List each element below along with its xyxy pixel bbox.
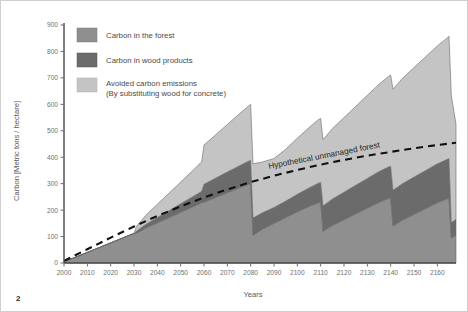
y-tick-label-500: 500 bbox=[47, 127, 58, 134]
legend-swatch-forest bbox=[77, 28, 97, 42]
y-tick-label-100: 100 bbox=[47, 233, 58, 240]
y-axis-title: Carbon [Metric tons / hectare] bbox=[12, 101, 21, 201]
page-number: 2 bbox=[16, 294, 20, 303]
x-tick-label-2160: 2160 bbox=[430, 269, 445, 276]
figure-container: 0100200300400500600700800900200020102020… bbox=[0, 0, 468, 312]
legend-swatch-wood-products bbox=[77, 53, 97, 67]
x-tick-label-2140: 2140 bbox=[383, 269, 398, 276]
x-tick-label-2080: 2080 bbox=[243, 269, 258, 276]
legend: Carbon in the forest Carbon in wood prod… bbox=[77, 28, 226, 98]
stacked-areas-group bbox=[64, 36, 456, 263]
y-tick-label-700: 700 bbox=[47, 74, 58, 81]
x-tick-label-2040: 2040 bbox=[150, 269, 165, 276]
y-tick-label-300: 300 bbox=[47, 180, 58, 187]
y-tick-label-0: 0 bbox=[54, 259, 58, 266]
y-tick-label-800: 800 bbox=[47, 48, 58, 55]
x-tick-label-2100: 2100 bbox=[290, 269, 305, 276]
y-tick-label-900: 900 bbox=[47, 21, 58, 28]
legend-label-avoided-emissions-sub: (By substituting wood for concrete) bbox=[106, 89, 226, 98]
x-tick-label-2000: 2000 bbox=[57, 269, 72, 276]
y-tick-label-600: 600 bbox=[47, 101, 58, 108]
x-tick-label-2060: 2060 bbox=[197, 269, 212, 276]
x-tick-label-2030: 2030 bbox=[127, 269, 142, 276]
legend-label-wood-products: Carbon in wood products bbox=[106, 56, 193, 65]
x-tick-label-2110: 2110 bbox=[314, 269, 329, 276]
x-tick-label-2020: 2020 bbox=[103, 269, 118, 276]
legend-swatch-avoided-emissions bbox=[77, 78, 97, 92]
x-tick-label-2120: 2120 bbox=[337, 269, 352, 276]
x-tick-label-2090: 2090 bbox=[267, 269, 282, 276]
x-tick-label-2150: 2150 bbox=[407, 269, 422, 276]
legend-label-forest: Carbon in the forest bbox=[106, 31, 175, 40]
carbon-stacked-area-chart: 0100200300400500600700800900200020102020… bbox=[1, 1, 468, 312]
legend-label-avoided-emissions: Avoided carbon emissions bbox=[106, 79, 197, 88]
y-tick-label-400: 400 bbox=[47, 154, 58, 161]
x-tick-label-2070: 2070 bbox=[220, 269, 235, 276]
x-tick-label-2050: 2050 bbox=[173, 269, 188, 276]
y-tick-label-200: 200 bbox=[47, 207, 58, 214]
x-axis-title: Years bbox=[243, 290, 262, 299]
x-tick-label-2130: 2130 bbox=[360, 269, 375, 276]
x-tick-label-2010: 2010 bbox=[80, 269, 95, 276]
